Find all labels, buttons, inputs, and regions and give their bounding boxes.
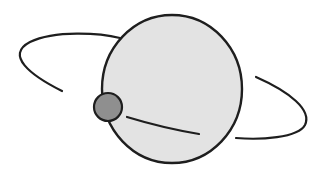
moon-body: [94, 93, 122, 121]
planet-orbit-illustration: [0, 0, 324, 173]
orbit-path-front-right: [236, 77, 306, 139]
planet-diagram: [0, 0, 324, 173]
planet-body: [102, 15, 242, 163]
